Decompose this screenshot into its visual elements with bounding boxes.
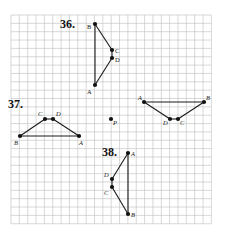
figure-image-36: ABDC <box>137 94 210 126</box>
vertex-label-D: D <box>115 56 120 63</box>
vertex-D <box>168 117 172 121</box>
point-P-label: P <box>112 119 117 126</box>
vertex-B <box>126 212 130 216</box>
vertex-D <box>110 56 114 60</box>
problem-number: 36. <box>60 17 75 31</box>
vertex-B <box>18 134 22 138</box>
figures-layer: BCDA36.CDBA37.ABDCADCB38. <box>8 17 210 218</box>
vertex-label-A: A <box>137 94 142 101</box>
segment-DA <box>95 58 112 85</box>
vertex-A <box>126 151 130 155</box>
vertex-C <box>110 48 114 52</box>
vertex-label-A: A <box>130 150 135 157</box>
vertex-label-B: B <box>14 139 18 146</box>
vertex-A <box>142 100 146 104</box>
vertex-label-B: B <box>206 94 210 101</box>
vertex-label-C: C <box>38 110 43 117</box>
vertex-D <box>51 117 55 121</box>
vertex-label-B: B <box>131 211 135 218</box>
problem-number: 37. <box>8 97 23 111</box>
vertex-label-D: D <box>55 110 61 117</box>
vertex-label-D: D <box>103 171 109 178</box>
segment-CB <box>112 187 128 214</box>
segment-DA <box>144 102 170 119</box>
segment-BC <box>95 24 112 50</box>
segment-BC <box>20 119 45 136</box>
vertex-label-A: A <box>87 88 92 95</box>
vertex-label-D: D <box>162 119 168 126</box>
segment-DA <box>53 119 79 136</box>
vertex-label-A: A <box>78 139 83 146</box>
vertex-label-C: C <box>115 47 119 54</box>
vertex-label-C: C <box>104 189 109 196</box>
vertex-C <box>110 185 114 189</box>
vertex-D <box>110 177 114 181</box>
problem-number: 38. <box>102 145 117 159</box>
vertex-A <box>77 134 81 138</box>
vertex-B <box>93 22 97 26</box>
vertex-label-C: C <box>180 119 185 126</box>
segment-BC <box>178 102 204 119</box>
vertex-C <box>43 117 47 121</box>
center-of-rotation: P <box>109 117 117 126</box>
vertex-label-B: B <box>87 23 92 30</box>
vertex-A <box>93 83 97 87</box>
transformation-grid-diagram: BCDA36.CDBA37.ABDCADCB38. P 36. 37. 38. … <box>0 0 227 231</box>
